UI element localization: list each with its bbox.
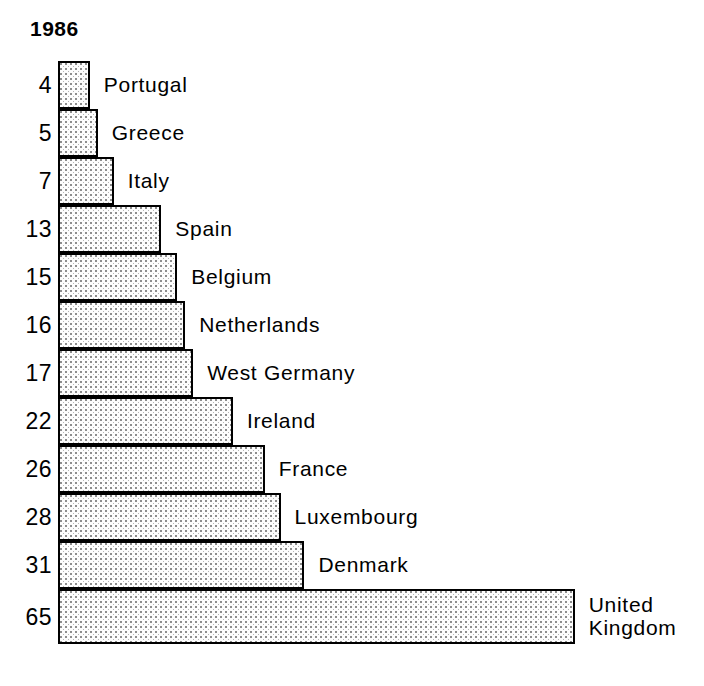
bar-rect <box>58 109 98 157</box>
bar-value-label: 22 <box>0 410 52 433</box>
bar-rect <box>58 205 161 253</box>
bar-rect <box>58 253 177 301</box>
bar-rect <box>58 349 193 397</box>
bar-value-label: 28 <box>0 506 52 529</box>
bar-value-label: 5 <box>0 122 52 145</box>
chart-title: 1986 <box>30 18 79 39</box>
bar-row: 22Ireland <box>0 397 704 445</box>
bar-value-label: 26 <box>0 458 52 481</box>
bar-value-label: 31 <box>0 554 52 577</box>
bar-row: 7Italy <box>0 157 704 205</box>
bar-rect <box>58 541 304 589</box>
bar-rect <box>58 493 281 541</box>
bar-value-label: 65 <box>0 605 52 628</box>
bar-category-label: Portugal <box>104 73 188 97</box>
bar-value-label: 13 <box>0 218 52 241</box>
bar-row: 17West Germany <box>0 349 704 397</box>
bar-value-label: 7 <box>0 170 52 193</box>
bar-category-label: Luxembourg <box>295 505 419 529</box>
bar-row: 4Portugal <box>0 61 704 109</box>
bar-category-label: West Germany <box>207 361 355 385</box>
bar-rect <box>58 589 575 644</box>
bar-value-label: 4 <box>0 74 52 97</box>
bar-row: 65United Kingdom <box>0 589 704 644</box>
bar-category-label: France <box>279 457 349 481</box>
bar-row: 28Luxembourg <box>0 493 704 541</box>
bar-category-label: Netherlands <box>199 313 320 337</box>
bar-row: 13Spain <box>0 205 704 253</box>
bar-value-label: 15 <box>0 266 52 289</box>
bars-container: 4Portugal5Greece7Italy13Spain15Belgium16… <box>0 61 704 644</box>
bar-row: 31Denmark <box>0 541 704 589</box>
bar-rect <box>58 61 90 109</box>
bar-row: 26France <box>0 445 704 493</box>
bar-chart: 1986 4Portugal5Greece7Italy13Spain15Belg… <box>0 0 704 686</box>
bar-rect <box>58 397 233 445</box>
bar-rect <box>58 301 185 349</box>
bar-category-label: Spain <box>175 217 232 241</box>
bar-rect <box>58 157 114 205</box>
bar-category-label: Italy <box>128 169 170 193</box>
bar-value-label: 17 <box>0 362 52 385</box>
bar-value-label: 16 <box>0 314 52 337</box>
bar-rect <box>58 445 265 493</box>
bar-row: 15Belgium <box>0 253 704 301</box>
bar-category-label: Ireland <box>247 409 316 433</box>
bar-category-label: Denmark <box>318 553 408 577</box>
bar-row: 16Netherlands <box>0 301 704 349</box>
bar-category-label: United Kingdom <box>589 593 677 640</box>
bar-category-label: Belgium <box>191 265 272 289</box>
bar-category-label: Greece <box>112 121 185 145</box>
bar-row: 5Greece <box>0 109 704 157</box>
